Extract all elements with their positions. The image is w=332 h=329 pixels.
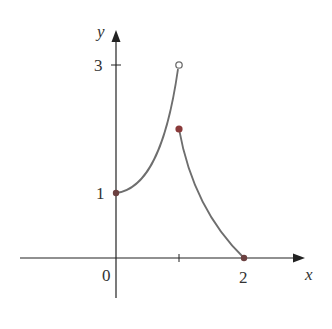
- open-dot-1-3: [176, 62, 182, 68]
- x-axis-arrow-icon: [293, 254, 305, 263]
- curve-piece-1: [116, 69, 178, 193]
- y-tick-label-1: 1: [96, 184, 105, 203]
- closed-dot-0-1: [113, 190, 119, 196]
- x-axis-label: x: [304, 265, 313, 284]
- x-tick-label-2: 2: [239, 268, 248, 287]
- y-axis-label: y: [95, 22, 105, 41]
- closed-dot-2-0: [241, 255, 247, 261]
- y-axis-arrow-icon: [112, 30, 121, 42]
- y-tick-label-3: 3: [94, 56, 103, 75]
- graph: y 3 1 0 2 x: [0, 0, 332, 329]
- closed-dot-1-2: [175, 125, 182, 132]
- curve-piece-2: [179, 129, 244, 258]
- origin-label: 0: [102, 266, 111, 285]
